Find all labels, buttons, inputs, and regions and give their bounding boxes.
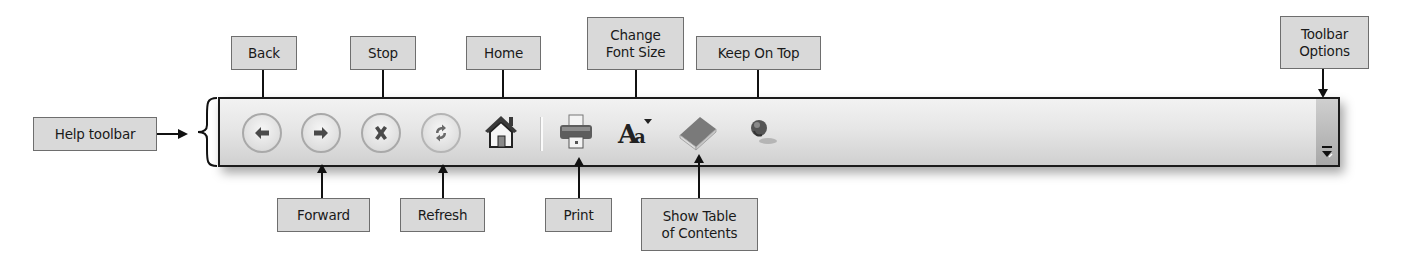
connector-forward — [321, 172, 323, 198]
arrow-left-icon — [251, 122, 273, 144]
callout-stop: Stop — [350, 36, 416, 70]
callout-show-toc: Show Table of Contents — [641, 198, 758, 251]
connector-print — [578, 165, 580, 198]
printer-icon — [556, 111, 596, 151]
home-button[interactable] — [481, 111, 521, 151]
help-toolbar: A a — [218, 97, 1340, 167]
toolbar-options-button[interactable] — [1316, 99, 1338, 165]
print-button[interactable] — [556, 111, 596, 151]
svg-text:a: a — [634, 126, 646, 147]
stop-button[interactable] — [361, 113, 401, 153]
callout-refresh: Refresh — [400, 198, 485, 232]
refresh-icon — [430, 122, 452, 144]
callout-print: Print — [545, 198, 612, 232]
connector-help-toolbar — [157, 133, 179, 135]
change-font-size-button[interactable]: A a — [616, 111, 656, 151]
x-icon — [370, 122, 392, 144]
font-size-icon: A a — [616, 111, 656, 151]
connector-refresh — [442, 172, 444, 198]
connector-show-toc — [698, 162, 700, 198]
callout-home: Home — [466, 36, 541, 70]
show-toc-button[interactable] — [676, 111, 720, 151]
toolbar-separator — [540, 117, 543, 151]
book-icon — [676, 111, 720, 151]
back-button[interactable] — [242, 113, 282, 153]
callout-toolbar-options: Toolbar Options — [1280, 16, 1369, 69]
callout-keep-on-top: Keep On Top — [696, 36, 821, 70]
callout-forward: Forward — [277, 198, 370, 232]
brace-icon — [197, 97, 219, 167]
arrow-right-icon — [310, 122, 332, 144]
overflow-chevron-icon — [1320, 145, 1334, 159]
refresh-button[interactable] — [421, 113, 461, 153]
keep-on-top-button[interactable] — [742, 111, 782, 151]
callout-help-toolbar: Help toolbar — [33, 117, 157, 151]
callout-back: Back — [231, 36, 297, 70]
arrow-help-toolbar — [178, 129, 188, 139]
house-icon — [481, 111, 521, 151]
pushpin-icon — [742, 111, 782, 151]
connector-toolbar-options — [1322, 69, 1324, 90]
forward-button[interactable] — [301, 113, 341, 153]
callout-change-font-size: Change Font Size — [587, 17, 684, 70]
